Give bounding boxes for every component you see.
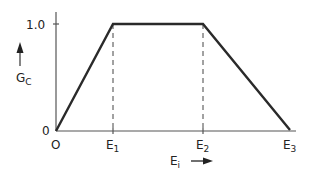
gc-arrow-icon bbox=[17, 42, 24, 53]
y-axis-label: GC bbox=[16, 71, 32, 87]
y-tick-label-1: 1.0 bbox=[26, 18, 45, 32]
x-tick-label-e1: E1 bbox=[106, 138, 119, 154]
gc-curve bbox=[56, 24, 290, 131]
x-origin-label: O bbox=[51, 138, 60, 152]
y-tick-label-0: 0 bbox=[42, 124, 50, 138]
diagram-canvas: 1.0 0 GC O E1 E2 E3 Ei bbox=[0, 0, 316, 174]
gc-trapezoid-diagram: 1.0 0 GC O E1 E2 E3 Ei bbox=[0, 0, 316, 174]
x-tick-label-e2: E2 bbox=[196, 138, 209, 154]
x-axis-label: Ei bbox=[170, 154, 180, 170]
x-tick-label-e3: E3 bbox=[283, 138, 296, 154]
ei-arrow-icon bbox=[203, 158, 213, 165]
